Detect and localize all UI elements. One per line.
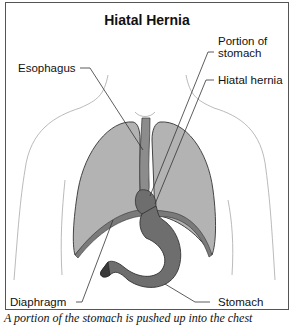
duodenum-shape <box>101 262 110 277</box>
label-stomach: Stomach <box>218 296 263 308</box>
label-portion-of-stomach-line2: stomach <box>218 47 261 59</box>
label-portion-of-stomach-line1: Portion of <box>218 35 267 47</box>
figure-title: Hiatal Hernia <box>0 12 294 28</box>
label-esophagus: Esophagus <box>18 62 76 74</box>
figure-caption: A portion of the stomach is pushed up in… <box>4 311 252 326</box>
label-diaphragm: Diaphragm <box>10 296 66 308</box>
label-hiatal-hernia: Hiatal hernia <box>218 74 283 86</box>
